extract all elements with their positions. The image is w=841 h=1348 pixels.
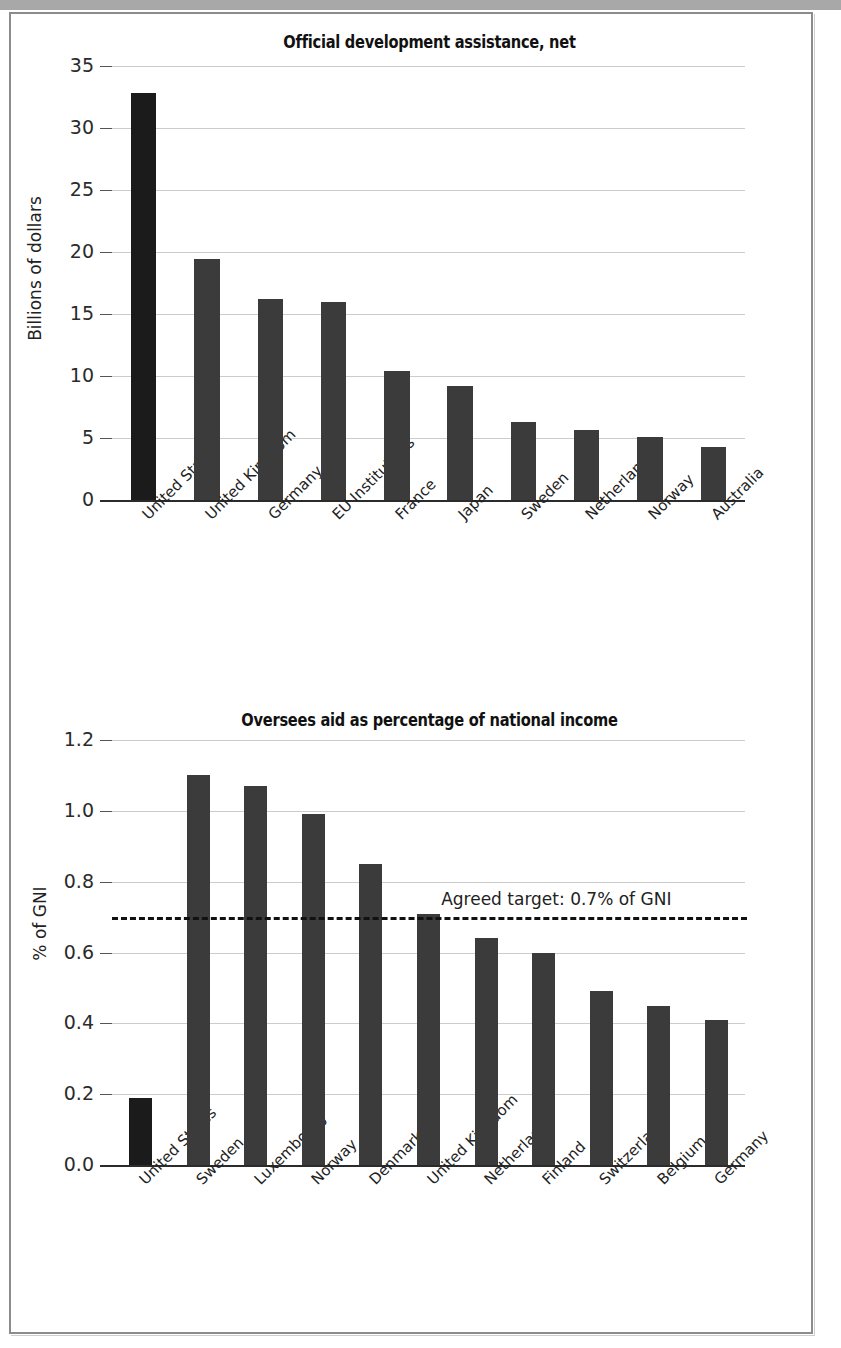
y-axis-tick-label: 5 [14,428,94,447]
bar [574,430,599,500]
gridline [112,128,745,129]
bar [384,371,409,500]
bar [359,864,382,1165]
y-axis-tick-label: 1.2 [14,730,94,749]
y-axis-tick-mark [100,376,112,377]
bar [532,953,555,1166]
chart-oversees-aid-percentage: Oversees aid as percentage of national i… [0,700,841,1340]
y-axis-tick-mark [100,1094,112,1095]
chart-1-title: Official development assistance, net [156,32,702,52]
x-axis-baseline [100,1165,745,1167]
y-axis-tick-mark [100,314,112,315]
chart-2-title: Oversees aid as percentage of national i… [156,710,702,730]
gridline [112,740,745,741]
y-axis-tick-mark [100,1023,112,1024]
y-axis-tick-label: 0.8 [14,872,94,891]
bar [302,814,325,1165]
figure-page: Official development assistance, net Bil… [0,0,841,1348]
y-axis-tick-label: 1.0 [14,801,94,820]
bar [131,93,156,500]
y-axis-tick-label: 35 [14,56,94,75]
bar [701,447,726,500]
y-axis-tick-label: 0.4 [14,1013,94,1032]
y-axis-tick-mark [100,438,112,439]
y-axis-tick-label: 15 [14,304,94,323]
bar [187,775,210,1165]
y-axis-tick-mark [100,66,112,67]
agreed-target-line [112,917,747,920]
chart-1-y-axis-title: Billions of dollars [27,179,44,359]
y-axis-tick-mark [100,882,112,883]
bar [194,259,219,500]
chart-1-plot-area: 05101520253035United StatesUnited Kingdo… [112,66,745,500]
bar [244,786,267,1165]
chart-official-development-assistance: Official development assistance, net Bil… [0,20,841,680]
y-axis-tick-mark [100,190,112,191]
y-axis-tick-label: 0 [14,490,94,509]
y-axis-tick-label: 25 [14,180,94,199]
bar [447,386,472,500]
y-axis-tick-mark [100,128,112,129]
top-gray-band [0,0,841,10]
bar [129,1098,152,1165]
y-axis-tick-mark [100,953,112,954]
bar [511,422,536,500]
y-axis-tick-mark [100,740,112,741]
chart-2-plot-area: 0.00.20.40.60.81.01.2United StatesSweden… [112,740,745,1165]
bar [705,1020,728,1165]
gridline [112,252,745,253]
y-axis-tick-label: 20 [14,242,94,261]
y-axis-tick-mark [100,811,112,812]
gridline [112,190,745,191]
bar [258,299,283,500]
y-axis-tick-label: 30 [14,118,94,137]
bar [637,437,662,500]
bar [417,914,440,1165]
agreed-target-annotation-label: Agreed target: 0.7% of GNI [441,891,671,908]
bar [647,1006,670,1165]
y-axis-tick-label: 0.0 [14,1155,94,1174]
bar [590,991,613,1165]
bar [321,302,346,500]
y-axis-tick-mark [100,252,112,253]
gridline [112,66,745,67]
y-axis-tick-label: 10 [14,366,94,385]
bar [475,938,498,1165]
y-axis-tick-label: 0.2 [14,1084,94,1103]
y-axis-tick-label: 0.6 [14,943,94,962]
